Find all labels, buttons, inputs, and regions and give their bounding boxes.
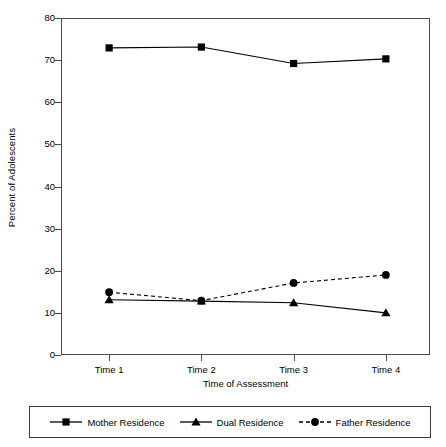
legend-label: Mother Residence — [87, 417, 164, 428]
x-axis-tick-label: Time 1 — [74, 364, 144, 375]
triangle-marker-icon — [179, 416, 213, 428]
y-axis-tick-label: 20 — [11, 266, 55, 276]
y-axis-tick-mark — [55, 355, 61, 356]
x-axis-tick-mark — [386, 355, 387, 361]
x-axis-tick-label: Time 2 — [166, 364, 236, 375]
circle-marker-icon — [311, 418, 319, 426]
legend-entry[interactable]: Dual Residence — [179, 416, 284, 428]
y-axis-tick-label: 10 — [11, 308, 55, 318]
y-axis-tick-label: 40 — [11, 182, 55, 192]
x-axis-tick-mark — [294, 355, 295, 361]
figure: Percent of Adolescents 01020304050607080… — [0, 0, 446, 447]
square-marker-icon — [382, 55, 389, 62]
series-line — [109, 47, 386, 63]
y-axis-tick-label: 50 — [11, 139, 55, 149]
square-marker-icon — [63, 418, 70, 425]
legend-entry[interactable]: Father Residence — [298, 416, 411, 428]
plot-series-canvas — [61, 18, 430, 355]
series-line — [109, 275, 386, 301]
circle-marker-icon — [197, 297, 205, 305]
square-marker-icon — [198, 43, 205, 50]
circle-marker-icon — [298, 416, 332, 428]
square-marker-icon — [106, 44, 113, 51]
triangle-marker-icon — [105, 295, 114, 303]
circle-marker-icon — [105, 288, 113, 296]
y-axis-tick-label: 70 — [11, 55, 55, 65]
y-axis-tick-labels: 01020304050607080 — [6, 0, 55, 447]
chart-legend: Mother ResidenceDual ResidenceFather Res… — [29, 406, 431, 438]
series-father-residence — [105, 271, 390, 304]
legend-entry[interactable]: Mother Residence — [49, 416, 164, 428]
series-dual-residence — [105, 295, 391, 316]
square-marker-icon — [49, 416, 83, 428]
series-mother-residence — [106, 43, 390, 67]
x-axis-tick-label: Time 3 — [259, 364, 329, 375]
y-axis-tick-label: 80 — [11, 13, 55, 23]
square-marker-icon — [290, 60, 297, 67]
series-line — [109, 300, 386, 313]
circle-marker-icon — [290, 279, 298, 287]
x-axis-tick-mark — [201, 355, 202, 361]
legend-label: Father Residence — [336, 417, 411, 428]
x-axis-title: Time of Assessment — [61, 378, 430, 389]
y-axis-tick-label: 30 — [11, 224, 55, 234]
x-axis-tick-label: Time 4 — [351, 364, 421, 375]
legend-label: Dual Residence — [217, 417, 284, 428]
circle-marker-icon — [382, 271, 390, 279]
y-axis-tick-label: 60 — [11, 97, 55, 107]
y-axis-tick-label: 0 — [11, 350, 55, 360]
x-axis-tick-mark — [109, 355, 110, 361]
